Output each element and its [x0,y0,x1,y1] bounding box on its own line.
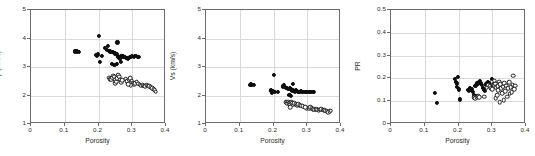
gridline-vertical [492,10,493,122]
y-tick [387,55,390,56]
y-axis-label: PR [355,61,362,70]
x-tick-label: 0.3 [487,127,496,133]
y-tick-label: 0 [364,120,386,126]
gridline-horizontal [391,56,524,57]
plot-area-3 [390,9,525,123]
y-tick-label: 0.1 [364,97,386,103]
data-point-open [482,94,487,99]
y-tick-label: 0.3 [364,51,386,57]
gridline-horizontal [391,33,524,34]
x-tick-label: 0.4 [521,127,530,133]
data-point-filled [457,87,461,91]
y-tick [387,100,390,101]
data-point-filled [435,100,439,104]
scatter-panel-3: 00.10.20.30.400.10.20.30.40.5PorosityPR [0,0,535,156]
y-tick-label: 0.5 [364,6,386,12]
x-tick-label: 0.2 [453,127,462,133]
data-point-open [489,79,494,84]
y-tick [387,32,390,33]
y-tick-label: 0.4 [364,29,386,35]
y-tick [387,77,390,78]
x-axis-label: Porosity [445,138,470,145]
data-point-open [511,73,516,78]
y-tick [387,9,390,10]
data-point-filled [433,90,437,94]
data-point-open [513,83,518,88]
y-tick [387,123,390,124]
x-tick-label: 0 [388,127,392,133]
figure-three-scatter-panels: 00.10.20.30.412345PorosityVp (Km/s)00.10… [0,0,535,156]
data-point-open [495,93,500,98]
gridline-vertical [425,10,426,122]
x-tick-label: 0.1 [419,127,428,133]
data-point-open [484,85,489,90]
gridline-vertical [459,10,460,122]
y-tick-label: 0.2 [364,74,386,80]
